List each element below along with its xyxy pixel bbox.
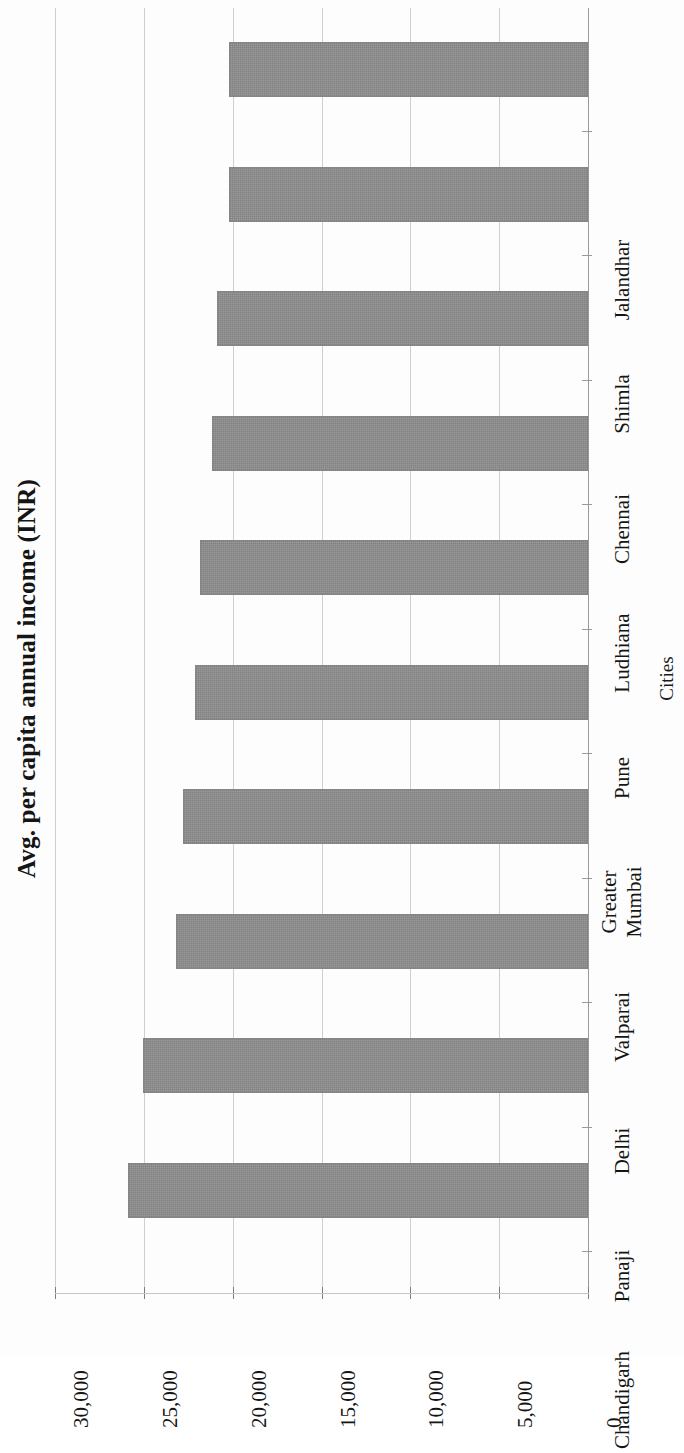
category-axis-tick	[582, 380, 592, 381]
category-axis-tick	[582, 878, 592, 879]
category-label: Jalandhar	[596, 175, 648, 385]
category-axis-tick	[582, 1127, 592, 1128]
value-axis-label: 15,000	[335, 1308, 361, 1428]
gridline-30000	[55, 8, 56, 1293]
plot-area: 05,00010,00015,00020,00025,00030,000Chan…	[0, 0, 684, 1293]
category-axis-tick	[582, 255, 592, 256]
gridline-25000	[144, 8, 145, 1293]
bar	[200, 540, 588, 595]
bar	[229, 42, 588, 97]
value-axis-label: 10,000	[423, 1308, 449, 1428]
bar	[217, 291, 588, 346]
category-axis-tick	[582, 1002, 592, 1003]
gridline-0	[588, 8, 589, 1293]
category-axis-tick	[582, 131, 592, 132]
category-axis-tick	[582, 504, 592, 505]
bar	[229, 167, 588, 222]
bar	[176, 914, 588, 969]
value-axis-label: 5,000	[512, 1308, 538, 1428]
bar	[128, 1163, 588, 1218]
category-axis-tick	[582, 629, 592, 630]
value-axis-label: 30,000	[68, 1308, 94, 1428]
value-axis-label: 25,000	[157, 1308, 183, 1428]
bar	[212, 416, 588, 471]
bar	[183, 789, 588, 844]
category-axis-tick	[582, 1251, 592, 1252]
category-axis-tick	[582, 753, 592, 754]
bar	[143, 1038, 588, 1093]
value-axis-spine	[55, 1293, 589, 1294]
bar	[195, 665, 588, 720]
value-axis-label: 20,000	[246, 1308, 272, 1428]
